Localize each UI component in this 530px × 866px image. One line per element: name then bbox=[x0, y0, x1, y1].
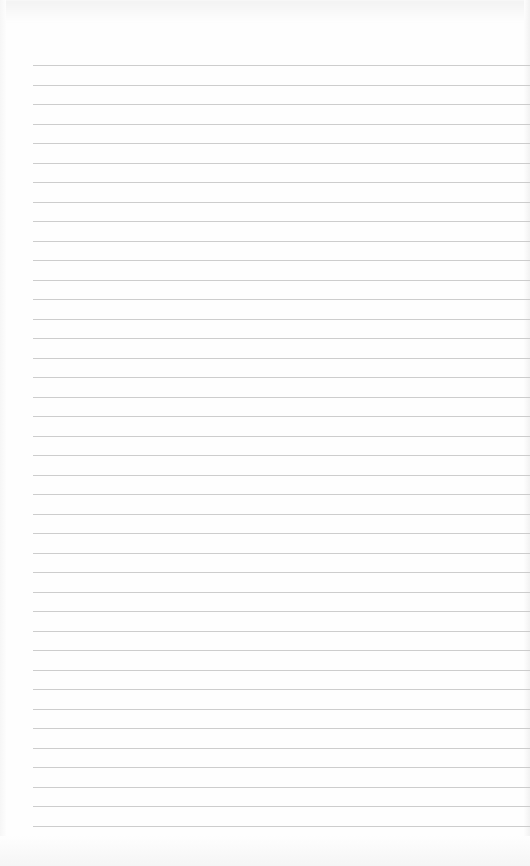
ruled-line bbox=[33, 826, 530, 827]
ruled-line bbox=[33, 377, 530, 378]
ruled-line bbox=[33, 397, 530, 398]
ruled-line bbox=[33, 299, 530, 300]
ruled-line bbox=[33, 767, 530, 768]
ruled-line bbox=[33, 709, 530, 710]
ruled-line bbox=[33, 592, 530, 593]
ruled-line bbox=[33, 631, 530, 632]
ruled-line bbox=[33, 338, 530, 339]
lined-paper bbox=[0, 0, 530, 866]
ruled-line bbox=[33, 436, 530, 437]
ruled-line bbox=[33, 455, 530, 456]
ruled-line bbox=[33, 104, 530, 105]
ruled-line bbox=[33, 650, 530, 651]
ruled-line bbox=[33, 572, 530, 573]
ruled-line bbox=[33, 143, 530, 144]
ruled-line bbox=[33, 806, 530, 807]
ruled-line bbox=[33, 670, 530, 671]
ruled-line bbox=[33, 319, 530, 320]
ruled-line bbox=[33, 85, 530, 86]
ruled-line bbox=[33, 182, 530, 183]
ruled-line bbox=[33, 280, 530, 281]
ruled-line bbox=[33, 416, 530, 417]
ruled-line bbox=[33, 163, 530, 164]
ruled-line bbox=[33, 124, 530, 125]
ruled-line bbox=[33, 689, 530, 690]
ruled-line bbox=[33, 260, 530, 261]
ruled-line bbox=[33, 728, 530, 729]
ruled-line bbox=[33, 611, 530, 612]
ruled-line bbox=[33, 202, 530, 203]
ruled-line bbox=[33, 514, 530, 515]
ruled-line bbox=[33, 475, 530, 476]
ruled-line bbox=[33, 748, 530, 749]
ruled-line bbox=[33, 221, 530, 222]
ruled-line bbox=[33, 358, 530, 359]
ruled-line bbox=[33, 494, 530, 495]
ruled-line bbox=[33, 65, 530, 66]
ruled-line bbox=[33, 241, 530, 242]
ruled-line bbox=[33, 787, 530, 788]
ruled-lines bbox=[0, 0, 530, 866]
ruled-line bbox=[33, 553, 530, 554]
ruled-line bbox=[33, 533, 530, 534]
